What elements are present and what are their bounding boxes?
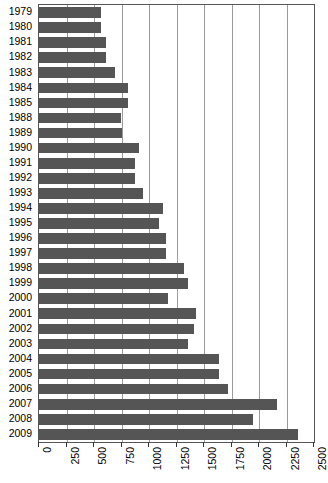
y-axis-tick-label: 1994 — [0, 200, 35, 215]
x-axis-tick-label: 1250 — [180, 447, 191, 470]
y-axis-tick-label: 1998 — [0, 260, 35, 275]
y-axis-tick-label: 1983 — [0, 64, 35, 79]
bar — [39, 369, 219, 380]
y-axis-tick-label: 1997 — [0, 245, 35, 260]
y-axis-tick-label: 2003 — [0, 335, 35, 350]
bar-row — [39, 397, 314, 412]
bar — [39, 98, 128, 109]
y-axis-tick-label: 1991 — [0, 155, 35, 170]
bar — [39, 158, 135, 169]
bar — [39, 203, 163, 214]
y-axis-tick-label: 1981 — [0, 34, 35, 49]
x-axis-tick-label: 1000 — [152, 447, 163, 470]
x-axis-tick-label: 1500 — [207, 447, 218, 470]
y-axis-tick-label: 2007 — [0, 396, 35, 411]
bar-row — [39, 276, 314, 291]
bar — [39, 218, 159, 229]
bar-row — [39, 171, 314, 186]
bar — [39, 414, 253, 425]
bar-row — [39, 80, 314, 95]
bar-row — [39, 35, 314, 50]
y-axis-tick-label: 1980 — [0, 19, 35, 34]
y-axis-tick-label: 1984 — [0, 79, 35, 94]
bar-series — [39, 5, 314, 442]
x-axis-tick-label: 1750 — [235, 447, 246, 470]
bar-row — [39, 351, 314, 366]
x-axis-tick-label: 0 — [42, 447, 53, 453]
bar-row — [39, 95, 314, 110]
y-axis-tick-label: 2005 — [0, 366, 35, 381]
bar — [39, 7, 101, 18]
bar — [39, 339, 188, 350]
bar — [39, 429, 298, 440]
bar — [39, 67, 115, 78]
bar-row — [39, 20, 314, 35]
y-axis-tick-label: 1982 — [0, 49, 35, 64]
bar — [39, 233, 166, 244]
y-axis-tick-label: 2004 — [0, 350, 35, 365]
y-axis-tick-label: 2000 — [0, 290, 35, 305]
bar — [39, 384, 228, 395]
y-axis-tick-label: 2006 — [0, 381, 35, 396]
bar-row — [39, 141, 314, 156]
y-axis-tick-label: 1992 — [0, 170, 35, 185]
bar — [39, 399, 277, 410]
bar-row — [39, 306, 314, 321]
y-axis-tick-label: 1989 — [0, 125, 35, 140]
bar-row — [39, 336, 314, 351]
y-axis-tick-label: 2002 — [0, 320, 35, 335]
x-axis-tick-label: 2250 — [290, 447, 301, 470]
y-axis-tick-label: 1993 — [0, 185, 35, 200]
y-axis-tick-label: 1996 — [0, 230, 35, 245]
bar-row — [39, 427, 314, 442]
y-axis-tick-label: 2008 — [0, 411, 35, 426]
bar-row — [39, 321, 314, 336]
bar — [39, 52, 106, 63]
y-axis-tick-label: 1999 — [0, 275, 35, 290]
bar-row — [39, 201, 314, 216]
bar — [39, 248, 166, 259]
bar — [39, 37, 106, 48]
bar — [39, 83, 128, 94]
bar — [39, 188, 143, 199]
bar — [39, 278, 188, 289]
bar-row — [39, 50, 314, 65]
bar — [39, 293, 168, 304]
bar-row — [39, 5, 314, 20]
bar — [39, 22, 101, 33]
x-axis-tick-label: 500 — [97, 447, 108, 465]
bar — [39, 173, 135, 184]
bar-row — [39, 110, 314, 125]
bar-row — [39, 65, 314, 80]
bar-row — [39, 231, 314, 246]
bar-row — [39, 216, 314, 231]
x-axis-tick-labels: 02505007501000125015001750200022502500 — [0, 447, 323, 483]
y-axis-tick-label: 2009 — [0, 426, 35, 441]
bar-row — [39, 126, 314, 141]
bar — [39, 143, 139, 154]
bar — [39, 354, 219, 365]
bar — [39, 324, 194, 335]
plot-area — [38, 4, 315, 443]
bar-row — [39, 412, 314, 427]
bar — [39, 128, 122, 139]
bar — [39, 263, 184, 274]
bar — [39, 308, 196, 319]
bar-row — [39, 156, 314, 171]
bar-row — [39, 261, 314, 276]
bar-row — [39, 246, 314, 261]
x-axis-tick-label: 750 — [125, 447, 136, 465]
x-axis-tick-label: 2000 — [262, 447, 273, 470]
y-axis-tick-label: 2001 — [0, 305, 35, 320]
y-axis-tick-label: 1995 — [0, 215, 35, 230]
y-axis-tick-label: 1979 — [0, 4, 35, 19]
bar-row — [39, 382, 314, 397]
bar-row — [39, 186, 314, 201]
bar — [39, 113, 121, 124]
x-axis-tick-label: 250 — [70, 447, 81, 465]
y-axis-tick-label: 1988 — [0, 109, 35, 124]
y-axis-tick-label: 1985 — [0, 94, 35, 109]
x-axis-tick-label: 2500 — [317, 447, 328, 470]
y-axis-category-labels: 1979198019811982198319841985198819891990… — [0, 4, 35, 441]
